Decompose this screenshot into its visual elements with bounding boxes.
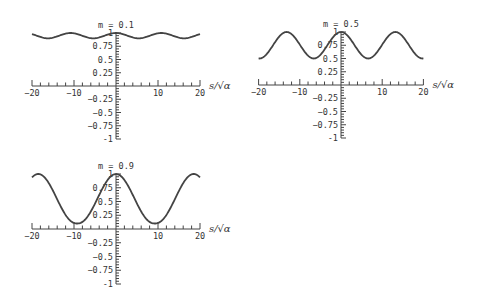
x-tick-label: −20	[24, 88, 39, 98]
y-tick-label: −0.25	[87, 238, 113, 248]
x-tick-label: −10	[66, 231, 81, 241]
y-tick-label: −0.5	[318, 107, 338, 117]
y-tick-label: −0.25	[312, 93, 338, 103]
x-tick-label: −10	[292, 87, 307, 97]
y-tick-label: −0.75	[87, 121, 113, 131]
x-tick-label: 10	[153, 231, 163, 241]
plot-title: m = 0.9	[98, 161, 134, 171]
y-tick-label: -1	[328, 133, 338, 143]
x-axis-label: s/√α	[432, 79, 454, 90]
figure: m = 0.1−20−101020s/√α-1−0.75−0.5−0.250.2…	[0, 0, 480, 303]
plot-title: m = 0.1	[98, 20, 134, 30]
y-tick-label: 0.25	[318, 67, 338, 77]
x-tick-label: −20	[251, 87, 266, 97]
plot-panel-3: m = 0.9−20−101020s/√α-1−0.75−0.5−0.250.2…	[24, 161, 231, 289]
y-tick-label: −0.5	[93, 252, 113, 262]
y-tick-label: 0.5	[323, 54, 338, 64]
y-tick-label: 0.5	[98, 55, 113, 65]
x-axis-label: s/√α	[209, 223, 231, 234]
y-tick-label: −0.75	[87, 265, 113, 275]
plot-panel-2: m = 0.5−20−101020s/√α-1−0.75−0.5−0.250.2…	[251, 19, 454, 143]
x-tick-label: 10	[153, 88, 163, 98]
y-tick-label: −0.5	[93, 108, 113, 118]
x-tick-label: −10	[66, 88, 81, 98]
x-tick-label: 20	[195, 231, 205, 241]
y-tick-label: -1	[103, 134, 113, 144]
plot-panel-1: m = 0.1−20−101020s/√α-1−0.75−0.5−0.250.2…	[24, 20, 231, 144]
y-tick-label: 0.5	[98, 197, 113, 207]
x-axis-label: s/√α	[209, 80, 231, 91]
y-tick-label: -1	[103, 279, 113, 289]
x-tick-label: 10	[377, 87, 387, 97]
plot-title: m = 0.5	[323, 19, 359, 29]
y-tick-label: 0.25	[93, 210, 113, 220]
x-tick-label: 20	[195, 88, 205, 98]
y-tick-label: −0.25	[87, 94, 113, 104]
y-tick-label: 0.75	[93, 41, 113, 51]
x-tick-label: 20	[418, 87, 428, 97]
y-tick-label: −0.75	[312, 120, 338, 130]
x-tick-label: −20	[24, 231, 39, 241]
y-tick-label: 0.25	[93, 68, 113, 78]
